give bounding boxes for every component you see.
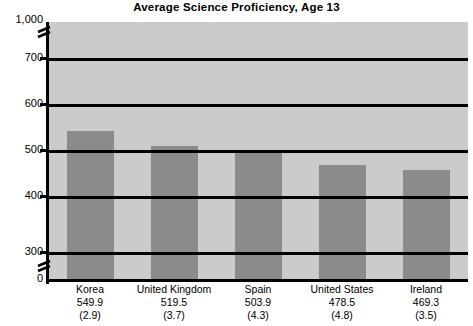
y-tick-mark-400	[40, 195, 47, 198]
bar-korea	[67, 131, 114, 281]
plot-area	[48, 22, 468, 281]
bar-united-kingdom	[151, 146, 198, 281]
category-standard-error: (3.5)	[372, 309, 473, 322]
bar-united-states	[319, 165, 366, 281]
chart-title: Average Science Proficiency, Age 13	[0, 1, 473, 13]
axis-break-lower-icon	[37, 258, 53, 275]
axis-break-upper-icon	[37, 25, 53, 42]
science-proficiency-bar-chart: Average Science Proficiency, Age 13 1,00…	[0, 0, 473, 326]
y-tick-label-1000: 1,000	[2, 14, 48, 25]
bar-ireland	[403, 170, 450, 281]
y-tick-mark-600	[40, 103, 47, 106]
bar-spain	[235, 153, 282, 281]
category-name: Ireland	[372, 283, 473, 296]
gridline-400	[48, 196, 468, 199]
category-value: 469.3	[372, 296, 473, 309]
y-axis-tick-labels: 1,0007006005004003000	[0, 0, 48, 326]
x-axis-line	[46, 279, 468, 282]
gridline-300	[48, 252, 468, 255]
gridline-600	[48, 104, 468, 107]
plot-inner	[48, 22, 468, 281]
y-tick-mark-300	[40, 251, 47, 254]
x-category-ireland: Ireland469.3(3.5)	[372, 283, 473, 323]
y-tick-mark-700	[40, 57, 47, 60]
y-tick-mark-500	[40, 149, 47, 152]
x-axis-category-labels: Korea549.9(2.9)United Kingdom519.5(3.7)S…	[48, 283, 468, 326]
gridline-500	[48, 150, 468, 153]
gridline-700	[48, 58, 468, 61]
